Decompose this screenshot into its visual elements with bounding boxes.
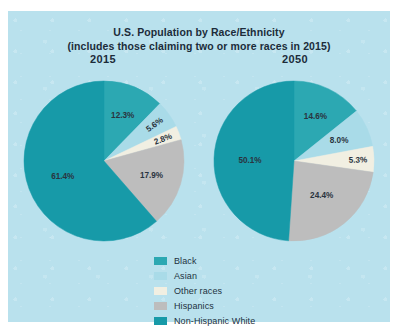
pie-slice-label-non-hispanic-white: 50.1% [238,156,262,165]
legend-swatch-asian [154,272,167,280]
pie-slice-label-black: 12.3% [111,111,135,120]
legend-item-non-hispanic-white: Non-Hispanic White [154,314,255,328]
chart-title-block: U.S. Population by Race/Ethnicity (inclu… [8,25,390,53]
legend-label-non-hispanic-white: Non-Hispanic White [174,316,255,326]
pie-title-2015: 2015 [8,53,198,65]
chart-legend: Black Asian Other races Hispanics Non-Hi… [154,254,255,329]
legend-swatch-other-races [154,287,167,295]
legend-swatch-non-hispanic-white [154,317,167,325]
pie-chart-2050: 14.6%8.0%5.3%24.4%50.1% [206,73,382,249]
pie-slice-label-hispanics: 17.9% [140,171,164,180]
bleed-text: · · · · · [18,0,46,3]
chart-panel: U.S. Population by Race/Ethnicity (inclu… [8,11,390,322]
legend-item-black: Black [154,254,255,268]
pie-svg-2015: 12.3%5.6%2.8%17.9%61.4% [16,73,192,249]
legend-item-asian: Asian [154,269,255,283]
pie-title-2050: 2050 [200,53,390,65]
legend-label-hispanics: Hispanics [174,301,214,311]
legend-label-asian: Asian [174,271,197,281]
legend-swatch-black [154,257,167,265]
pie-slice-label-non-hispanic-white: 61.4% [51,172,75,181]
legend-item-other-races: Other races [154,284,255,298]
pie-slice-hispanics [289,161,374,241]
pie-slice-label-asian: 8.0% [330,136,349,145]
pie-svg-2050: 14.6%8.0%5.3%24.4%50.1% [206,73,382,249]
chart-subtitle: (includes those claiming two or more rac… [8,39,390,53]
legend-item-hispanics: Hispanics [154,299,255,313]
pie-slice-label-black: 14.6% [304,112,328,121]
legend-swatch-hispanics [154,302,167,310]
legend-label-black: Black [174,256,197,266]
chart-title: U.S. Population by Race/Ethnicity [8,25,390,39]
pie-slice-label-other-races: 5.3% [349,155,369,164]
pie-slice-label-hispanics: 24.4% [310,191,334,200]
page-top-bleed: · · · · · [0,0,397,9]
pie-chart-2015: 12.3%5.6%2.8%17.9%61.4% [16,73,192,249]
legend-label-other-races: Other races [174,286,222,296]
